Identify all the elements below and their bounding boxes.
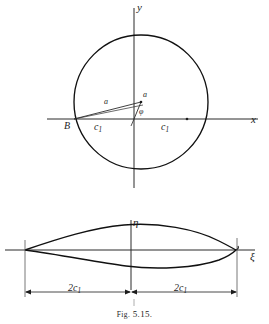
dim-label-right: 2c1 [174, 283, 187, 295]
dim-label-left-subscript: 1 [77, 287, 81, 295]
top-x-axis-label: x [251, 114, 256, 125]
dim-arrow-left-end [125, 290, 131, 295]
dim-label-right-subscript: 1 [183, 287, 187, 295]
axis-point-marker [186, 118, 189, 121]
dim-arrow-right-end [231, 290, 237, 295]
figure-container: y x B a a φ c1 c1 η ξ 2c1 2c1 Fig. 5.15. [0, 0, 269, 324]
circle-center-point [140, 101, 143, 104]
dim-arrow-right-start [131, 290, 137, 295]
figure-vector-canvas [0, 0, 269, 324]
dim-arrow-left-start [25, 290, 31, 295]
figure-caption-prefix: Fig [117, 310, 128, 319]
dim-label-left: 2c1 [68, 283, 81, 295]
figure-caption-prefix-dot: . [128, 310, 130, 319]
figure-caption-number: 5.15. [133, 309, 153, 319]
half-length-left-label: c1 [94, 122, 102, 134]
half-length-right-label: c1 [161, 122, 169, 134]
bottom-eta-axis-label: η [133, 217, 138, 228]
half-length-right-subscript: 1 [165, 126, 169, 134]
radius-a-label: a [104, 98, 108, 106]
center-a-label: a [143, 91, 147, 99]
top-y-axis-label: y [137, 2, 142, 13]
point-b-label: B [64, 121, 70, 131]
half-length-left-subscript: 1 [98, 126, 102, 134]
figure-caption: Fig. 5.15. [0, 309, 269, 319]
bottom-xi-axis-label: ξ [250, 251, 255, 262]
angle-phi-label: φ [139, 108, 143, 116]
chord-b-to-center [74, 105, 143, 119]
